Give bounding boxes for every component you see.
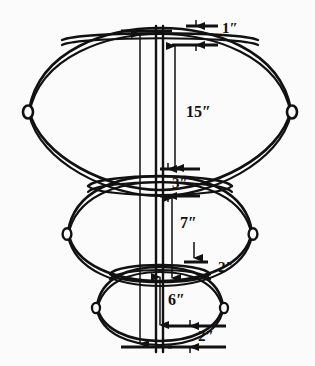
middle-ring-eyelet-right xyxy=(249,228,258,240)
dimension-label-top-mid-gap: 3″ xyxy=(172,175,188,191)
dimension-label-base-offset: 2″ xyxy=(198,328,214,344)
upper-ring-eyelet-right xyxy=(287,106,297,119)
dimension-label-mid-tier-height: 7″ xyxy=(180,214,197,231)
dimension-label-mid-bottom-gap: 2″ xyxy=(218,259,234,275)
band-middle xyxy=(88,176,232,195)
lower-ring-eyelet-left xyxy=(92,303,100,313)
middle-ring-eyelet-left xyxy=(63,228,72,240)
dimension-label-low-tier-height: 6″ xyxy=(168,291,185,308)
upper-ring xyxy=(29,28,291,196)
dimension-mid-bottom-gap xyxy=(184,242,208,262)
diagram-canvas: 1″ 15″ 3″ 7″ 2″ 6″ 2″ xyxy=(0,0,315,366)
wire-frame-diagram: 1″ 15″ 3″ 7″ 2″ 6″ 2″ xyxy=(0,0,315,366)
dimension-base-offset xyxy=(168,320,226,353)
lower-ring-eyelet-right xyxy=(220,303,228,313)
dimension-label-top-offset: 1″ xyxy=(222,20,238,36)
upper-ring-eyelet-left xyxy=(23,106,33,119)
dimension-label-top-tier-height: 15″ xyxy=(186,103,211,120)
